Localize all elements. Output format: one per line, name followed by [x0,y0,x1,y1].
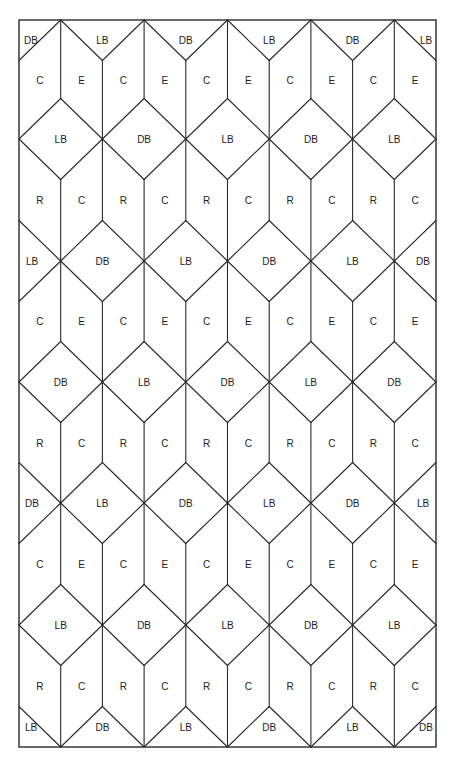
seam-line [19,139,61,180]
patch-label-r: R [286,195,293,206]
seam-line [228,99,270,140]
patch-label-e: E [78,559,85,570]
patch-label-r: R [286,438,293,449]
seam-line [102,139,144,180]
seam-line [228,585,270,626]
patch-label-e: E [328,75,335,86]
patch-label-lb: LB [346,256,359,267]
patch-label-c: C [286,316,293,327]
quilt-diagram-svg: DBLBDBLBDBLBCECECECECELBDBLBDBLBRCRCRCRC… [0,0,455,764]
patch-label-c: C [328,195,335,206]
patch-label-db: DB [304,134,318,145]
seam-line [61,585,103,626]
seam-line [144,503,186,544]
seam-line [186,707,228,748]
patch-label-db: DB [419,722,433,733]
seam-line [186,625,228,666]
patch-label-lb: LB [221,620,234,631]
patch-label-e: E [78,316,85,327]
patch-label-e: E [245,559,252,570]
patch-label-r: R [120,438,127,449]
patch-label-db: DB [54,377,68,388]
seam-line [19,261,61,302]
patch-label-e: E [412,559,419,570]
patch-label-c: C [161,195,168,206]
seam-line [269,463,311,504]
seam-line [144,261,186,302]
seam-line [311,261,353,302]
patch-label-r: R [286,681,293,692]
patch-label-lb: LB [263,35,276,46]
seam-line [19,625,61,666]
patch-label-lb: LB [25,722,38,733]
patch-label-c: C [161,681,168,692]
patch-label-c: C [78,681,85,692]
seam-line [394,585,436,626]
patch-label-c: C [203,316,210,327]
patch-label-c: C [286,559,293,570]
seam-line [269,625,311,666]
patch-label-db: DB [24,35,38,46]
patch-label-r: R [120,681,127,692]
patch-label-r: R [203,681,210,692]
seam-line [144,625,186,666]
patch-label-e: E [412,75,419,86]
seam-line [228,503,270,544]
patch-label-c: C [78,438,85,449]
seam-line [269,261,311,302]
patch-label-db: DB [346,498,360,509]
seam-line [102,625,144,666]
seam-line [394,625,436,666]
seam-line [186,139,228,180]
patch-label-r: R [36,195,43,206]
seam-line [61,503,103,544]
patch-label-lb: LB [26,256,39,267]
patch-label-db: DB [262,256,276,267]
patch-label-c: C [120,316,127,327]
patch-label-lb: LB [180,722,193,733]
seam-line [394,382,436,423]
patch-label-c: C [245,438,252,449]
seam-line [353,625,395,666]
seam-line [144,139,186,180]
patch-label-e: E [162,75,169,86]
quilt-diagram: DBLBDBLBDBLBCECECECECELBDBLBDBLBRCRCRCRC… [0,0,455,764]
patch-label-e: E [412,316,419,327]
patch-label-db: DB [262,722,276,733]
patch-label-c: C [245,681,252,692]
patch-label-db: DB [95,256,109,267]
patch-label-c: C [328,681,335,692]
patch-label-lb: LB [221,134,234,145]
seam-line [228,139,270,180]
patch-label-r: R [203,438,210,449]
seam-line [269,382,311,423]
patch-label-c: C [36,559,43,570]
patch-label-db: DB [25,498,39,509]
seam-line [61,139,103,180]
seam-line [228,261,270,302]
seam-line [61,382,103,423]
seam-line [269,20,311,61]
patch-label-e: E [78,75,85,86]
seam-line [186,221,228,262]
patch-label-r: R [203,195,210,206]
seam-line [19,503,61,544]
patch-label-c: C [328,438,335,449]
patch-label-lb: LB [55,134,68,145]
patch-label-lb: LB [96,498,109,509]
patch-label-r: R [36,438,43,449]
seam-line [102,382,144,423]
patch-label-e: E [245,75,252,86]
patch-label-e: E [328,559,335,570]
patch-label-r: R [36,681,43,692]
patch-label-lb: LB [55,620,68,631]
patch-label-lb: LB [388,134,401,145]
seam-line [353,139,395,180]
seam-line [353,382,395,423]
patch-label-lb: LB [305,377,318,388]
patch-label-db: DB [95,722,109,733]
patch-label-lb: LB [263,498,276,509]
seam-line [61,261,103,302]
seam-line [144,382,186,423]
patch-label-db: DB [179,498,193,509]
